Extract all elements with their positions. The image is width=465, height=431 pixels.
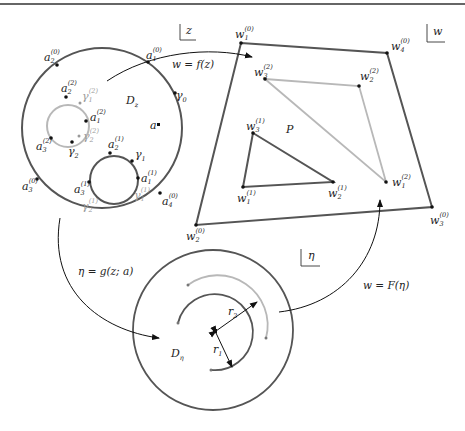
label-a3-2: a3(2)	[36, 137, 52, 154]
label-a3-0: a3(0)	[22, 177, 38, 194]
vertex-w3-0	[430, 205, 434, 209]
z-plane-label: z	[185, 24, 192, 37]
label-w1-2: w1(2)	[392, 173, 411, 190]
z-plane-indicator: z	[180, 24, 196, 40]
label-a2-1: a2(1)	[108, 135, 124, 152]
w-plane-label: w	[433, 25, 443, 38]
point-gamma2	[70, 140, 74, 144]
outer-polygon	[196, 43, 432, 225]
outer-boundary-gamma0	[22, 48, 182, 208]
point-gamma1	[130, 159, 134, 163]
map-F-label: w = F(η)	[363, 279, 409, 291]
label-a4-0: a4(0)	[162, 192, 178, 209]
eta-plane-label: η	[308, 249, 315, 262]
map-f-label: w = f(z)	[172, 58, 214, 70]
domain-z-label: Dz	[125, 94, 139, 109]
domain-eta-label: Dη	[170, 347, 184, 362]
map-g-label: η = g(z; a)	[78, 265, 133, 277]
eta-plane-indicator: η	[301, 249, 320, 266]
vertex-w1-2	[384, 180, 388, 184]
hole-triangle-2	[265, 79, 386, 182]
label-w1-1: w1(1)	[237, 189, 256, 206]
vertex-a1-1	[136, 176, 140, 180]
map-g-arrow	[58, 218, 159, 338]
vertex-a2-0	[55, 63, 59, 67]
slit-end	[177, 322, 180, 325]
polygon-w: P w1(0) w4(0) w3(0) w2(0) w3(2) w2(2) w1…	[186, 25, 449, 244]
label-a2-2: a2(2)	[61, 79, 77, 96]
vertex-a1-2	[84, 119, 88, 123]
label-gamma1-2: γ1(2)	[82, 87, 98, 104]
vertex-w1-1	[241, 185, 245, 189]
label-w3-2: w3(2)	[254, 63, 273, 80]
slit-end	[187, 284, 190, 287]
label-gamma2-2: γ2(2)	[83, 127, 99, 144]
vertex-w4-0	[385, 51, 389, 55]
slit-end	[265, 337, 268, 340]
label-w3-1: w3(1)	[246, 117, 265, 134]
label-w1-0: w1(0)	[235, 25, 254, 42]
slit-end	[210, 369, 213, 372]
conformal-map-diagram: z Dz a γ0 a1(0) a2(0) a3(0) a4(0)	[0, 0, 465, 431]
hole-triangle-1	[243, 133, 333, 187]
domain-eta: r2 r1 Dη	[133, 250, 293, 410]
label-gamma2: γ2	[68, 145, 79, 160]
label-w2-1: w2(1)	[328, 184, 347, 201]
vertex-w2-2	[357, 84, 361, 88]
label-w3-0: w3(0)	[430, 211, 449, 228]
gamma0-label: γ0	[176, 89, 187, 104]
label-a1-1: a1(1)	[141, 169, 157, 186]
label-w4-0: w4(0)	[391, 37, 410, 54]
vertex-w1-0	[239, 41, 243, 45]
center-point	[213, 329, 217, 333]
point-gamma2-2	[78, 135, 81, 138]
vertex-a2-1	[108, 151, 112, 155]
vertex-w2-1	[331, 180, 335, 184]
w-plane-indicator: w	[427, 24, 445, 42]
r2-label: r2	[228, 305, 237, 320]
point-a-label: a	[150, 119, 157, 132]
label-w2-2: w2(2)	[360, 67, 379, 84]
r1-label: r1	[213, 343, 222, 358]
point-a	[157, 123, 160, 126]
label-gamma1: γ1	[135, 148, 146, 163]
polygon-label: P	[285, 123, 294, 136]
label-w2-0: w2(0)	[186, 227, 205, 244]
label-a1-2: a1(2)	[90, 108, 106, 125]
domain-z: Dz a γ0 a1(0) a2(0) a3(0) a4(0) a2(2) a1…	[22, 46, 187, 214]
label-a1-0: a1(0)	[146, 46, 162, 63]
label-gamma2-1: γ2(1)	[82, 197, 98, 214]
label-a2-0: a2(0)	[44, 48, 60, 65]
label-a3-1: a3(1)	[74, 180, 90, 197]
